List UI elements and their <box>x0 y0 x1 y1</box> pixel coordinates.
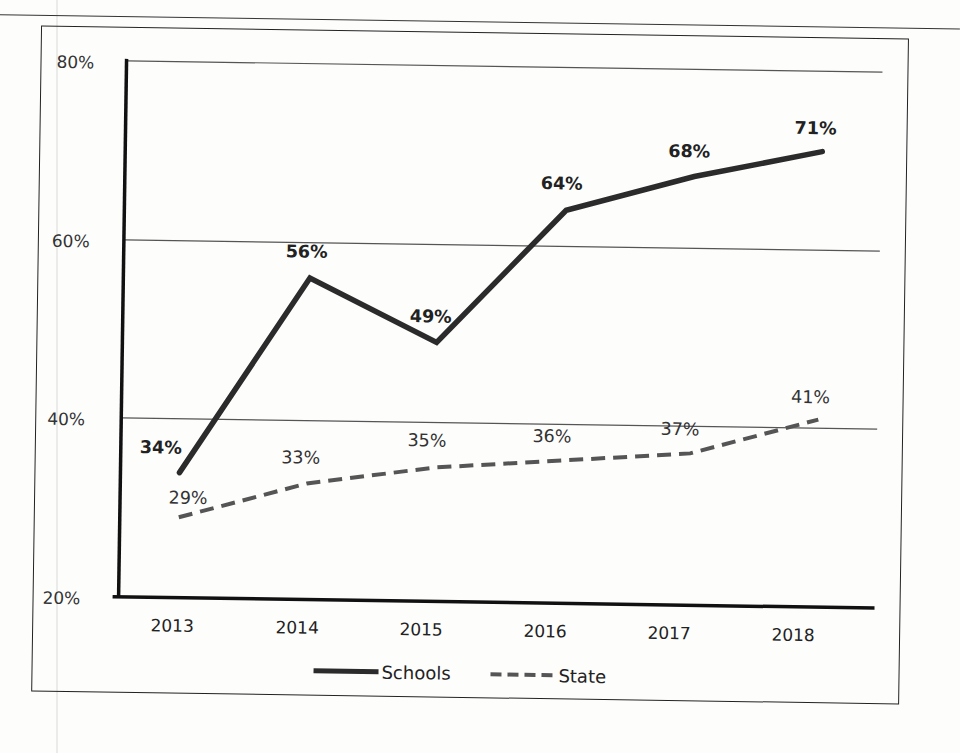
y-tick-40: 40% <box>47 409 85 430</box>
gridline-40 <box>122 418 877 429</box>
state-data-labels: 29% 33% 35% 36% 37% 41% <box>168 378 830 518</box>
x-tick-2017: 2017 <box>647 623 691 644</box>
gridline-80 <box>128 61 883 72</box>
state-label-2016: 36% <box>532 426 571 447</box>
schools-label-2017: 68% <box>668 141 710 162</box>
state-label-2017: 37% <box>661 419 700 440</box>
gridlines <box>122 61 882 429</box>
schools-label-2015: 49% <box>410 306 452 327</box>
y-tick-20: 20% <box>42 588 80 609</box>
x-tick-2018: 2018 <box>771 625 815 646</box>
legend-label-state: State <box>558 665 606 687</box>
chart-stage: 80% 60% 40% 20% 2013 2014 2015 2016 2017… <box>0 0 947 753</box>
state-label-2015: 35% <box>407 430 446 451</box>
x-axis <box>113 597 875 608</box>
x-tick-2014: 2014 <box>275 617 319 638</box>
line-chart: 80% 60% 40% 20% 2013 2014 2015 2016 2017… <box>0 0 947 753</box>
state-label-2014: 33% <box>281 447 320 468</box>
legend-item-state[interactable]: State <box>490 664 606 687</box>
state-label-2013: 29% <box>168 488 207 509</box>
y-tick-60: 60% <box>52 231 90 252</box>
state-label-2018: 41% <box>791 387 830 408</box>
x-tick-2013: 2013 <box>150 615 194 636</box>
schools-label-2018: 71% <box>795 118 837 139</box>
legend-label-schools: Schools <box>381 662 450 684</box>
legend-solid-line-icon <box>314 671 379 672</box>
y-tick-80: 80% <box>56 52 94 73</box>
y-axis <box>119 59 127 598</box>
y-tick-labels: 80% 60% 40% 20% <box>42 52 94 609</box>
state-series-line <box>179 410 819 527</box>
schools-label-2014: 56% <box>286 241 328 262</box>
schools-series-line <box>179 142 822 482</box>
gridline-60 <box>125 240 880 251</box>
x-tick-2015: 2015 <box>399 619 443 640</box>
legend-item-schools[interactable]: Schools <box>313 661 450 684</box>
x-tick-2016: 2016 <box>523 621 567 642</box>
schools-label-2013: 34% <box>140 437 182 458</box>
schools-label-2016: 64% <box>541 173 583 194</box>
x-tick-labels: 2013 2014 2015 2016 2017 2018 <box>150 615 814 645</box>
legend-dashed-line-icon <box>490 674 555 675</box>
legend: Schools State <box>313 661 606 687</box>
